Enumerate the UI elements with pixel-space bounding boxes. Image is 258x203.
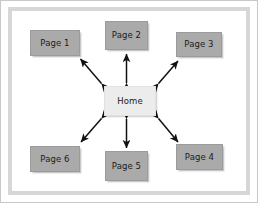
node-page-4[interactable]: Page 4 [176,144,223,170]
node-page-6-label: Page 6 [40,155,69,164]
connector-home-page-6 [81,119,102,143]
node-page-2-label: Page 2 [112,31,141,40]
node-page-1[interactable]: Page 1 [30,30,80,56]
diagram-canvas: Page 1 Page 2 Page 3 Home Page 4 Page 5 … [1,1,258,203]
node-page-1-label: Page 1 [40,39,69,48]
site-map-figure: Page 1 Page 2 Page 3 Home Page 4 Page 5 … [0,0,258,203]
node-page-3[interactable]: Page 3 [176,32,222,57]
connector-home-page-3 [159,61,179,84]
node-home-label: Home [117,97,143,106]
node-page-6[interactable]: Page 6 [30,146,80,172]
connector-home-page-4 [159,119,179,143]
node-page-4-label: Page 4 [185,153,214,162]
node-page-5-label: Page 5 [112,162,141,171]
node-home[interactable]: Home [104,86,156,116]
node-page-5[interactable]: Page 5 [105,151,148,181]
connector-home-page-1 [81,59,102,84]
node-page-2[interactable]: Page 2 [105,21,148,50]
node-page-3-label: Page 3 [184,40,213,49]
